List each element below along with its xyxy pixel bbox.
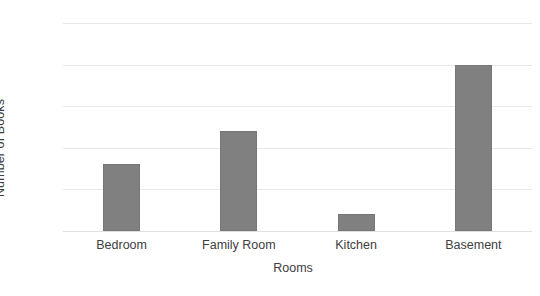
gridline (63, 231, 532, 232)
bar-chart: Number of Books 0510152025 BedroomFamily… (0, 0, 540, 296)
bars (63, 23, 532, 231)
bar[interactable] (220, 131, 257, 231)
bar[interactable] (338, 214, 375, 231)
bar[interactable] (455, 65, 492, 231)
bar[interactable] (103, 164, 140, 231)
plot-area (63, 23, 532, 231)
x-tick-label: Bedroom (96, 239, 147, 252)
x-axis-title: Rooms (0, 261, 540, 275)
x-tick-label: Basement (445, 239, 501, 252)
x-tick-label: Family Room (202, 239, 276, 252)
y-axis-title: Number of Books (0, 0, 36, 296)
x-tick-label: Kitchen (335, 239, 377, 252)
